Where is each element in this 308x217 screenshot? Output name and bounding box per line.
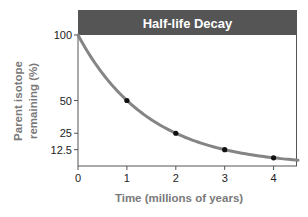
y-axis-ticks: 100502512.5	[51, 29, 78, 156]
y-tick-label: 50	[60, 95, 72, 107]
data-point	[222, 147, 227, 152]
y-tick-label: 100	[54, 29, 72, 41]
y-axis-label: Parent isotope remaining (%)	[12, 61, 39, 141]
data-point-markers	[124, 98, 276, 161]
x-tick-label: 2	[173, 172, 179, 184]
data-point	[173, 131, 178, 136]
x-tick-label: 3	[222, 172, 228, 184]
chart-title: Half-life Decay	[143, 16, 233, 31]
half-life-decay-chart: Half-life Decay 100502512.5 01234 Time (…	[0, 0, 308, 217]
decay-curve	[78, 35, 298, 160]
chart-title-bar: Half-life Decay	[78, 10, 297, 35]
x-axis-ticks: 01234	[75, 166, 277, 184]
data-point	[124, 98, 129, 103]
axes	[78, 35, 297, 166]
x-axis-label: Time (millions of years)	[115, 192, 243, 204]
y-tick-label: 25	[60, 127, 72, 139]
y-axis-label-line-2: remaining (%)	[27, 63, 39, 139]
x-tick-label: 1	[124, 172, 130, 184]
data-point	[271, 155, 276, 160]
y-axis-label-line-1: Parent isotope	[12, 61, 24, 141]
x-tick-label: 0	[75, 172, 81, 184]
x-tick-label: 4	[271, 172, 277, 184]
y-tick-label: 12.5	[51, 144, 72, 156]
